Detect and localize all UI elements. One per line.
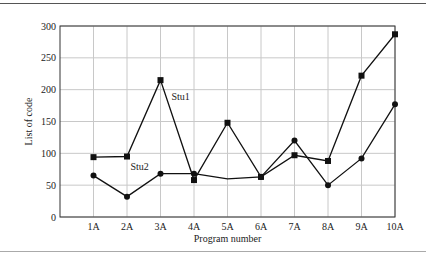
- y-tick-label: 250: [41, 52, 56, 63]
- circle-marker: [292, 138, 298, 144]
- circle-marker: [91, 173, 97, 179]
- square-marker: [91, 154, 97, 160]
- line-chart: 0501001502002503001A2A3A4A5A6A7A8A9A10AP…: [0, 0, 426, 256]
- y-axis-label: List of code: [23, 97, 34, 145]
- y-tick-label: 300: [41, 21, 56, 32]
- x-tick-label: 4A: [188, 221, 201, 232]
- y-tick-label: 200: [41, 84, 56, 95]
- circle-marker: [325, 182, 331, 188]
- circle-marker: [258, 174, 264, 180]
- circle-marker: [392, 101, 398, 107]
- circle-marker: [359, 155, 365, 161]
- annotation-stu2: Stu2: [131, 161, 149, 172]
- x-tick-label: 7A: [288, 221, 301, 232]
- x-tick-label: 3A: [154, 221, 167, 232]
- square-marker: [124, 154, 130, 160]
- y-tick-label: 50: [46, 180, 56, 191]
- square-marker: [325, 158, 331, 164]
- y-tick-label: 0: [51, 212, 56, 223]
- x-tick-label: 8A: [322, 221, 335, 232]
- circle-marker: [158, 171, 164, 177]
- circle-marker: [191, 171, 197, 177]
- square-marker: [392, 31, 398, 37]
- circle-marker: [124, 194, 130, 200]
- x-tick-label: 9A: [355, 221, 368, 232]
- square-marker: [292, 152, 298, 158]
- x-tick-label: 1A: [87, 221, 100, 232]
- annotation-stu1: Stu1: [172, 91, 190, 102]
- x-tick-label: 10A: [386, 221, 404, 232]
- square-marker: [158, 77, 164, 83]
- square-marker: [359, 73, 365, 79]
- x-tick-label: 2A: [121, 221, 134, 232]
- x-tick-label: 6A: [255, 221, 268, 232]
- x-axis-label: Program number: [194, 233, 262, 244]
- y-tick-label: 100: [41, 148, 56, 159]
- square-marker: [225, 120, 231, 126]
- x-tick-label: 5A: [221, 221, 234, 232]
- y-tick-label: 150: [41, 116, 56, 127]
- square-marker: [191, 177, 197, 183]
